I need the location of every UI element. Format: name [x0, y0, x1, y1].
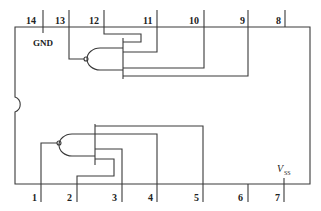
pin-label-3: 3: [112, 192, 117, 203]
upper-input-pin11: [123, 27, 157, 52]
vss-subscript: SS: [284, 170, 291, 176]
pin-label-4: 4: [148, 192, 153, 203]
upper-nand-body: [87, 48, 123, 70]
lower-nand-gate: [41, 124, 203, 184]
lower-nand-body: [59, 134, 95, 156]
pin-label-2: 2: [67, 192, 72, 203]
lower-input-pin3: [95, 149, 122, 184]
upper-input-pin10: [123, 27, 204, 68]
gnd-label: GND: [33, 38, 54, 48]
upper-output-wire: [69, 27, 84, 59]
upper-nand-gate: [69, 27, 248, 79]
lower-output-wire: [41, 143, 57, 184]
pin-label-11: 11: [143, 15, 152, 26]
pin-label-12: 12: [89, 15, 99, 26]
pin-label-8: 8: [276, 15, 281, 26]
pin-label-10: 10: [189, 15, 199, 26]
pin-label-7: 7: [275, 192, 280, 203]
pin-label-6: 6: [238, 192, 243, 203]
pin-label-14: 14: [26, 15, 36, 26]
pin-label-1: 1: [32, 192, 37, 203]
top-pins: [43, 10, 285, 27]
pin-label-5: 5: [194, 192, 199, 203]
pin-label-9: 9: [240, 15, 245, 26]
pin-label-13: 13: [55, 15, 65, 26]
ic-pinout-diagram: 14 13 12 11 10 9 8 GND 1 2 3 4 5 6 7 V S…: [0, 0, 321, 211]
chip-body-outline: [15, 27, 310, 184]
lower-input-pin5: [95, 126, 203, 184]
